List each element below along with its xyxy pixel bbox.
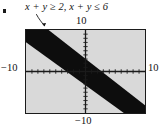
- axis-label-left: −10: [1, 62, 17, 73]
- axis-label-top: 10: [76, 15, 87, 26]
- inequality-graph-figure: x + y ≥ 2, x + y ≤ 6: [0, 0, 159, 133]
- axis-label-right: 10: [148, 62, 159, 73]
- inequality-caption: x + y ≥ 2, x + y ≤ 6: [25, 1, 108, 12]
- item-bullet-mark: [3, 9, 6, 13]
- axis-label-bottom: −10: [75, 115, 91, 126]
- plot-area: [25, 29, 146, 114]
